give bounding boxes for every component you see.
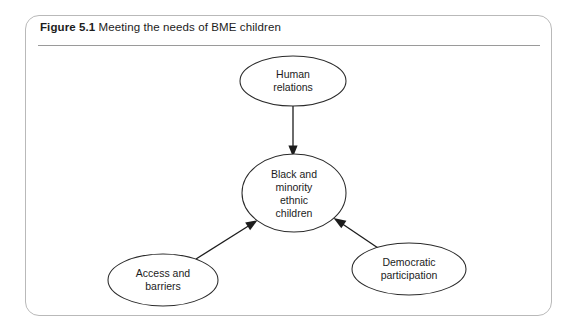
node-human-relations[interactable]: Human relations bbox=[240, 56, 346, 106]
node-democratic-participation-line-1: Democratic bbox=[382, 256, 435, 268]
node-bme-children-line-2: minority bbox=[276, 181, 314, 193]
node-bme-children-shape bbox=[242, 154, 346, 232]
node-bme-children-line-4: children bbox=[276, 207, 313, 219]
node-access-and-barriers-line-1: Access and bbox=[136, 267, 190, 279]
node-access-and-barriers-line-2: barriers bbox=[145, 280, 181, 292]
node-bme-children-line-1: Black and bbox=[271, 168, 317, 180]
node-democratic-participation-line-2: participation bbox=[381, 269, 438, 281]
connector-democratic-participation-to-bme bbox=[334, 218, 382, 250]
node-human-relations-line-2: relations bbox=[273, 81, 313, 93]
connector-human-relations-to-bme bbox=[288, 106, 297, 157]
figure-page: Figure 5.1 Meeting the needs of BME chil… bbox=[0, 0, 576, 332]
node-democratic-participation[interactable]: Democratic participation bbox=[352, 243, 466, 295]
concept-map-diagram: Human relations Black and minority ethni… bbox=[0, 0, 576, 332]
node-bme-children-line-3: ethnic bbox=[280, 194, 308, 206]
node-bme-children[interactable]: Black and minority ethnic children bbox=[242, 154, 346, 232]
node-access-and-barriers[interactable]: Access and barriers bbox=[108, 254, 218, 306]
node-human-relations-line-1: Human bbox=[276, 68, 310, 80]
connector-access-and-barriers-to-bme bbox=[196, 220, 258, 259]
